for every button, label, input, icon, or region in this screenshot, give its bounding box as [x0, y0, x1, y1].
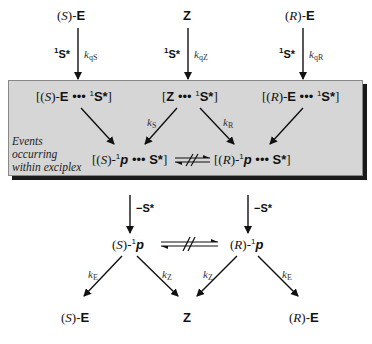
rate-kqz: kqZ — [194, 49, 208, 62]
product-z: Z — [183, 311, 191, 324]
quench-reagent-z: 1S* — [164, 47, 180, 60]
free-pair-r: (R)-1p — [230, 238, 263, 251]
events-label: Events occurring within exciplex — [12, 135, 81, 174]
quench-reagent-r: 1S* — [279, 47, 295, 60]
rate-ke-s: kE — [88, 269, 98, 282]
rate-ke-r: kE — [282, 269, 292, 282]
free-pair-s: (S)-1p — [112, 238, 144, 251]
exciplex-r-e: [(R)-E ••• 1S*] — [262, 90, 339, 103]
rate-kqs: kqS — [84, 49, 97, 62]
rate-kqr: kqR — [309, 49, 323, 62]
rate-kz-r: kZ — [203, 269, 213, 282]
product-s-e: (S)-E — [61, 311, 89, 324]
product-r-e: (R)-E — [289, 311, 319, 324]
release-label-r: −S* — [254, 203, 272, 214]
rate-kz-s: kZ — [162, 269, 172, 282]
top-r-e: (R)-E — [285, 9, 315, 22]
exciplex-z: [Z ••• 1S*] — [162, 90, 218, 103]
pair-exciplex-s: [(S)-1p ••• S*] — [92, 153, 167, 166]
rate-kr: kR — [223, 117, 233, 130]
quench-reagent-s: 1S* — [54, 47, 70, 60]
rate-ks: kS — [147, 117, 156, 130]
exciplex-s-e: [(S)-E ••• 1S*] — [36, 90, 112, 103]
top-z: Z — [183, 9, 191, 22]
pair-exciplex-r: [(R)-1p ••• S*] — [214, 153, 291, 166]
release-label-s: −S* — [136, 203, 154, 214]
top-s-e: (S)-E — [57, 9, 85, 22]
